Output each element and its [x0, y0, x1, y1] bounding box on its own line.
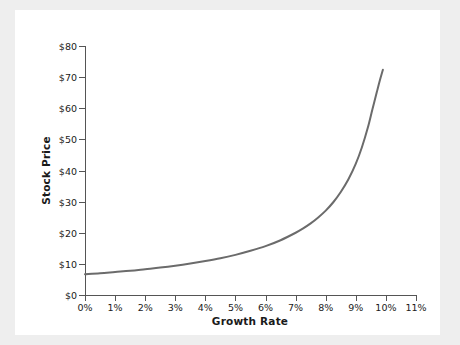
- page-top-text-strip: [0, 0, 460, 9]
- chart-figure: Stock Price Growth Rate $0$10$20$30$40$5…: [15, 10, 440, 335]
- plot-area: [15, 10, 440, 335]
- stock-price-curve: [85, 70, 383, 274]
